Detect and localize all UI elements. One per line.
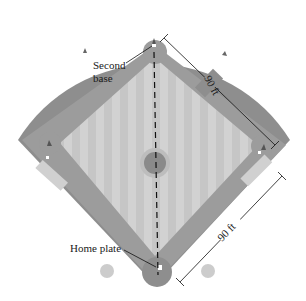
- baseball-diamond-diagram: 90 ft 90 ft Second base Home plate: [0, 0, 306, 301]
- pitchers-mound: [144, 152, 166, 174]
- on-deck-circle-right: [201, 264, 215, 278]
- home-plate-label: Home plate: [70, 242, 121, 254]
- third-base: [46, 156, 49, 159]
- fielder-icon: [83, 48, 87, 53]
- second-base-label-line1: Second: [93, 59, 126, 71]
- first-base: [258, 151, 261, 154]
- fielder-icon: [222, 51, 227, 56]
- home-plate-circle: [142, 257, 172, 287]
- second-base-label-line2: base: [93, 72, 113, 84]
- home-plate: [158, 265, 162, 270]
- first-base-dirt: [251, 135, 273, 157]
- on-deck-circle-left: [100, 264, 114, 278]
